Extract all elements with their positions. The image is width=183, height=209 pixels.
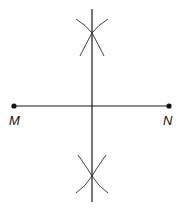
label-m: M [9,113,20,128]
point-m [11,103,16,108]
point-n [166,103,171,108]
construction-diagram: M N [0,0,183,209]
label-n: N [163,113,173,128]
